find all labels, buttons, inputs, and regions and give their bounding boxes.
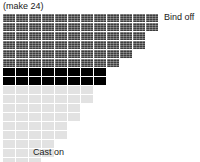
stitch-cell: [68, 104, 80, 112]
stitch-cell: [42, 14, 54, 22]
stitch-cell: [107, 14, 119, 22]
stitch-cell: [55, 86, 67, 94]
stitch-cell: [29, 95, 41, 103]
stitch-cell: [146, 14, 158, 22]
stitch-cell: [16, 158, 28, 162]
stitch-cell: [16, 131, 28, 139]
stitch-cell: [120, 23, 132, 31]
stitch-cell: [16, 41, 28, 49]
stitch-cell: [81, 95, 93, 103]
stitch-cell: [55, 113, 67, 121]
stitch-cell: [68, 14, 80, 22]
stitch-cell: [16, 50, 28, 58]
stitch-cell: [42, 23, 54, 31]
stitch-cell: [16, 140, 28, 148]
stitch-cell: [3, 59, 15, 67]
stitch-cell: [68, 113, 80, 121]
stitch-cell: [68, 86, 80, 94]
stitch-cell: [55, 59, 67, 67]
stitch-cell: [3, 131, 15, 139]
stitch-cell: [16, 113, 28, 121]
bind-off-label: Bind off: [164, 13, 194, 22]
stitch-cell: [29, 77, 41, 85]
stitch-cell: [55, 23, 67, 31]
stitch-cell: [3, 77, 15, 85]
stitch-cell: [55, 41, 67, 49]
stitch-cell: [68, 77, 80, 85]
chart-row: [3, 23, 159, 31]
chart-row: [3, 77, 159, 85]
stitch-cell: [3, 104, 15, 112]
stitch-cell: [133, 23, 145, 31]
stitch-cell: [120, 50, 132, 58]
stitch-cell: [42, 95, 54, 103]
chart-row: [3, 149, 159, 157]
stitch-cell: [120, 32, 132, 40]
stitch-cell: [3, 113, 15, 121]
stitch-cell: [81, 14, 93, 22]
stitch-cell: [68, 95, 80, 103]
chart-row: [3, 104, 159, 112]
stitch-cell: [107, 23, 119, 31]
stitch-cell: [16, 59, 28, 67]
stitch-cell: [107, 59, 119, 67]
stitch-cell: [16, 86, 28, 94]
stitch-cell: [107, 50, 119, 58]
stitch-cell: [3, 158, 15, 162]
stitch-cell: [68, 68, 80, 76]
stitch-cell: [94, 32, 106, 40]
chart-row: [3, 113, 159, 121]
chart-row: [3, 158, 159, 162]
stitch-cell: [42, 50, 54, 58]
stitch-cell: [94, 14, 106, 22]
stitch-cell: [42, 32, 54, 40]
stitch-cell: [55, 95, 67, 103]
stitch-cell: [29, 68, 41, 76]
stitch-cell: [107, 32, 119, 40]
stitch-cell: [29, 23, 41, 31]
stitch-cell: [81, 23, 93, 31]
stitch-cell: [42, 86, 54, 94]
stitch-cell: [16, 122, 28, 130]
stitch-cell: [29, 122, 41, 130]
stitch-cell: [16, 95, 28, 103]
stitch-cell: [29, 104, 41, 112]
stitch-cell: [94, 41, 106, 49]
stitch-cell: [133, 32, 145, 40]
stitch-cell: [55, 131, 67, 139]
chart-row: [3, 59, 159, 67]
stitch-cell: [55, 14, 67, 22]
stitch-cell: [3, 23, 15, 31]
stitch-cell: [120, 41, 132, 49]
stitch-cell: [29, 41, 41, 49]
stitch-cell: [133, 14, 145, 22]
stitch-cell: [68, 23, 80, 31]
stitch-cell: [94, 68, 106, 76]
stitch-cell: [42, 77, 54, 85]
stitch-cell: [16, 68, 28, 76]
stitch-cell: [81, 41, 93, 49]
stitch-cell: [55, 50, 67, 58]
stitch-cell: [81, 68, 93, 76]
stitch-cell: [68, 41, 80, 49]
stitch-cell: [146, 23, 158, 31]
stitch-cell: [3, 86, 15, 94]
stitch-cell: [81, 32, 93, 40]
stitch-cell: [68, 32, 80, 40]
stitch-cell: [3, 95, 15, 103]
chart-row: [3, 140, 159, 148]
stitch-cell: [107, 41, 119, 49]
stitch-cell: [120, 14, 132, 22]
stitch-cell: [133, 41, 145, 49]
chart-row: [3, 68, 159, 76]
chart-row: [3, 122, 159, 130]
chart-row: [3, 131, 159, 139]
chart-row: [3, 95, 159, 103]
chart-row: Bind off: [3, 14, 159, 22]
cast-on-label: Cast on: [33, 147, 64, 158]
stitch-cell: [42, 59, 54, 67]
stitch-cell: [29, 131, 41, 139]
stitch-chart: Bind offCast on: [3, 14, 159, 162]
stitch-cell: [81, 77, 93, 85]
stitch-cell: [55, 32, 67, 40]
